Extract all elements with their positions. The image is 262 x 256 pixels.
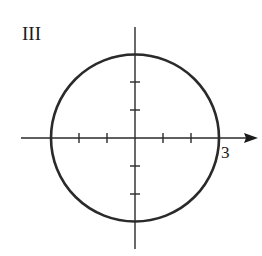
x-axis-arrow-icon bbox=[244, 133, 258, 143]
circle-diagram: III 3 bbox=[0, 0, 262, 256]
panel-label: III bbox=[22, 23, 41, 44]
diagram-canvas: III 3 bbox=[0, 0, 262, 256]
x-axis-label: 3 bbox=[221, 143, 230, 162]
